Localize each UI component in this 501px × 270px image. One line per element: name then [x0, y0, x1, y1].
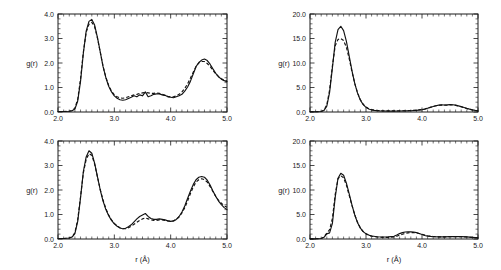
x-tick-label: 3.0 — [361, 242, 371, 249]
plot-panel-top-right: 2.03.04.05.00.05.010.015.020.0g(r) — [250, 0, 501, 135]
y-tick-label: 2.0 — [44, 187, 54, 194]
y-tick-label: 2.0 — [44, 60, 54, 67]
x-tick-label: 5.0 — [473, 242, 483, 249]
plot-panel-bottom-left: 2.03.04.05.00.01.02.03.04.0g(r)r (Å) — [0, 135, 250, 270]
y-tick-label: 20.0 — [292, 138, 306, 145]
plot-frame — [310, 141, 478, 239]
x-tick-label: 2.0 — [305, 115, 315, 122]
y-axis-label: g(r) — [26, 59, 38, 68]
curve-dashed — [310, 39, 478, 112]
plot-frame — [58, 141, 227, 239]
x-tick-label: 5.0 — [222, 242, 232, 249]
curve-dashed — [58, 154, 227, 239]
x-tick-label: 3.0 — [361, 115, 371, 122]
y-tick-label: 0.0 — [44, 236, 54, 243]
y-tick-label: 10.0 — [292, 187, 306, 194]
plot-frame — [310, 14, 478, 112]
x-tick-label: 4.0 — [417, 115, 427, 122]
x-tick-label: 3.0 — [109, 115, 119, 122]
y-tick-label: 3.0 — [44, 162, 54, 169]
plot-panel-bottom-right: 2.03.04.05.00.05.010.015.020.0g(r)r (Å) — [250, 135, 501, 270]
y-tick-label: 0.0 — [44, 109, 54, 116]
x-tick-label: 2.0 — [305, 242, 315, 249]
figure-radial-distribution-functions: 2.03.04.05.00.01.02.03.04.0g(r)2.03.04.0… — [0, 0, 501, 270]
y-axis-label: g(r) — [26, 186, 38, 195]
plot-frame — [58, 14, 227, 112]
x-tick-label: 5.0 — [473, 115, 483, 122]
y-axis-label: g(r) — [278, 186, 290, 195]
y-tick-label: 0.0 — [296, 109, 306, 116]
y-tick-label: 3.0 — [44, 35, 54, 42]
y-tick-label: 10.0 — [292, 60, 306, 67]
y-tick-label: 1.0 — [44, 211, 54, 218]
y-tick-label: 5.0 — [296, 84, 306, 91]
x-axis-label: r (Å) — [387, 255, 402, 264]
x-axis-label: r (Å) — [135, 255, 150, 264]
plot-panel-top-left: 2.03.04.05.00.01.02.03.04.0g(r) — [0, 0, 250, 135]
y-tick-label: 15.0 — [292, 162, 306, 169]
x-tick-label: 2.0 — [53, 115, 63, 122]
x-tick-label: 4.0 — [166, 115, 176, 122]
y-tick-label: 4.0 — [44, 11, 54, 18]
curve-solid — [310, 173, 478, 238]
y-tick-label: 5.0 — [296, 211, 306, 218]
curve-solid — [58, 19, 227, 111]
y-tick-label: 1.0 — [44, 84, 54, 91]
y-tick-label: 4.0 — [44, 138, 54, 145]
curve-dashed — [310, 176, 478, 239]
curve-dashed — [58, 22, 227, 111]
y-axis-label: g(r) — [278, 59, 290, 68]
x-tick-label: 4.0 — [166, 242, 176, 249]
x-tick-label: 2.0 — [53, 242, 63, 249]
x-tick-label: 5.0 — [222, 115, 232, 122]
curve-solid — [310, 26, 478, 112]
y-tick-label: 15.0 — [292, 35, 306, 42]
x-tick-label: 3.0 — [109, 242, 119, 249]
y-tick-label: 20.0 — [292, 11, 306, 18]
y-tick-label: 0.0 — [296, 236, 306, 243]
curve-solid — [58, 151, 227, 239]
x-tick-label: 4.0 — [417, 242, 427, 249]
